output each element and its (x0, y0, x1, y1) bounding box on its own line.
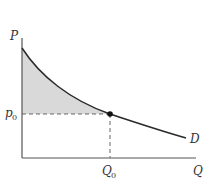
y-axis-label: P (9, 29, 19, 43)
demand-diagram: P Q D p 0 Q 0 (0, 0, 210, 183)
curve-label: D (189, 132, 200, 146)
x-axis-label: Q (193, 164, 203, 178)
price-label-subscript: 0 (12, 113, 17, 122)
equilibrium-point (107, 111, 113, 117)
price-label: p 0 (5, 106, 17, 122)
quantity-label-subscript: 0 (111, 171, 116, 180)
quantity-label: Q 0 (102, 164, 116, 180)
consumer-surplus-area (22, 48, 110, 114)
